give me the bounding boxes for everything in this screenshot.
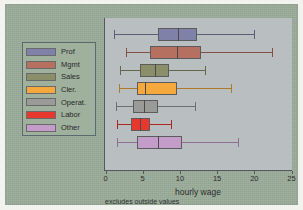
whisker-cap-low bbox=[126, 48, 127, 57]
legend-swatch-icon bbox=[26, 98, 56, 106]
screenshot-root: 0510152025 hourly wage excludes outside … bbox=[0, 0, 303, 210]
whisker-cap-high bbox=[238, 138, 239, 147]
whisker-cap-low bbox=[114, 30, 115, 39]
box-iqr bbox=[137, 136, 182, 149]
legend-item-labor[interactable]: Labor bbox=[26, 109, 92, 121]
whisker-cap-high bbox=[195, 102, 196, 111]
figure-canvas: 0510152025 hourly wage excludes outside … bbox=[5, 4, 298, 205]
whisker-cap-low bbox=[116, 102, 117, 111]
whisker-high bbox=[150, 124, 171, 125]
whisker-cap-low bbox=[117, 138, 118, 147]
legend-item-other[interactable]: Other bbox=[26, 122, 92, 134]
whisker-cap-low bbox=[117, 120, 118, 129]
legend-box: ProfMgmtSalesCler.Operat.LaborOther bbox=[22, 42, 96, 136]
legend-item-label: Other bbox=[61, 124, 80, 132]
box-iqr bbox=[133, 100, 158, 113]
whisker-high bbox=[182, 142, 238, 143]
legend-item-sales[interactable]: Sales bbox=[26, 71, 92, 83]
legend-swatch-icon bbox=[26, 61, 56, 69]
x-tick-label: 5 bbox=[141, 174, 145, 183]
box-iqr bbox=[137, 82, 176, 95]
legend-swatch-icon bbox=[26, 111, 56, 119]
legend-item-label: Labor bbox=[61, 111, 80, 119]
legend-item-prof[interactable]: Prof bbox=[26, 46, 92, 58]
legend-swatch-icon bbox=[26, 73, 56, 81]
legend-item-label: Prof bbox=[61, 48, 75, 56]
legend-item-cler[interactable]: Cler. bbox=[26, 84, 92, 96]
legend-item-label: Operat. bbox=[61, 99, 86, 107]
legend-item-mgmt[interactable]: Mgmt bbox=[26, 59, 92, 71]
median-line bbox=[177, 46, 178, 59]
x-tick-label: 25 bbox=[287, 174, 295, 183]
x-tick-label: 20 bbox=[250, 174, 258, 183]
box-iqr bbox=[150, 46, 201, 59]
whisker-low bbox=[114, 34, 157, 35]
x-tick-label: 0 bbox=[103, 174, 107, 183]
legend-item-label: Mgmt bbox=[61, 61, 80, 69]
median-line bbox=[144, 100, 145, 113]
median-line bbox=[145, 82, 146, 95]
whisker-low bbox=[116, 106, 133, 107]
whisker-high bbox=[169, 70, 205, 71]
median-line bbox=[178, 28, 179, 41]
whisker-high bbox=[177, 88, 231, 89]
boxplot-other bbox=[5, 134, 303, 152]
legend-swatch-icon bbox=[26, 48, 56, 56]
median-line bbox=[140, 118, 141, 131]
x-tick-label: 15 bbox=[213, 174, 221, 183]
whisker-low bbox=[119, 88, 138, 89]
median-line bbox=[155, 64, 156, 77]
whisker-cap-low bbox=[119, 84, 120, 93]
whisker-cap-high bbox=[205, 66, 206, 75]
whisker-low bbox=[126, 52, 151, 53]
x-tick-label: 10 bbox=[176, 174, 184, 183]
x-axis-line bbox=[104, 170, 292, 171]
whisker-cap-low bbox=[120, 66, 121, 75]
whisker-low bbox=[117, 124, 131, 125]
whisker-high bbox=[158, 106, 195, 107]
whisker-cap-high bbox=[254, 30, 255, 39]
chart-footnote: excludes outside values bbox=[105, 198, 179, 205]
whisker-high bbox=[201, 52, 272, 53]
whisker-cap-high bbox=[171, 120, 172, 129]
whisker-cap-high bbox=[231, 84, 232, 93]
whisker-low bbox=[120, 70, 140, 71]
y-axis-line bbox=[104, 18, 105, 171]
x-axis-title: hourly wage bbox=[175, 187, 221, 197]
legend-swatch-icon bbox=[26, 124, 56, 132]
whisker-high bbox=[197, 34, 254, 35]
median-line bbox=[158, 136, 159, 149]
whisker-cap-high bbox=[272, 48, 273, 57]
legend-item-label: Cler. bbox=[61, 86, 76, 94]
legend-item-operat[interactable]: Operat. bbox=[26, 96, 92, 108]
legend-swatch-icon bbox=[26, 86, 56, 94]
legend-item-label: Sales bbox=[61, 73, 80, 81]
whisker-low bbox=[117, 142, 138, 143]
